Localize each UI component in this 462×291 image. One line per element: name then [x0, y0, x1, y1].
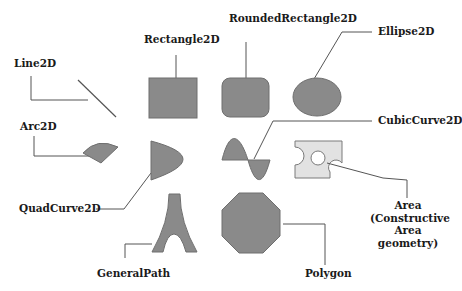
generalpath-connector [125, 244, 152, 258]
area-label: Area (Constructive Area geometry) [370, 199, 446, 249]
area-connector [327, 163, 407, 198]
polygon-group [222, 193, 325, 265]
ellipse2d-connector [314, 32, 372, 79]
generalpath-shape [152, 194, 197, 252]
line2d-label: Line2D [14, 57, 56, 70]
cubiccurve2d-label: CubicCurve2D [378, 114, 462, 127]
line2d-connector [31, 76, 88, 100]
rectangle2d-label: Rectangle2D [144, 33, 220, 46]
roundedrectangle2d-shape [222, 78, 269, 117]
generalpath-label: GeneralPath [97, 267, 170, 280]
cubiccurve2d-shape-top [222, 139, 248, 160]
roundedrectangle2d-label: RoundedRectangle2D [229, 12, 357, 25]
area-hole [311, 151, 325, 165]
polygon-label: Polygon [305, 267, 352, 280]
ellipse2d-shape [293, 78, 341, 116]
polygon-connector [283, 224, 325, 265]
ellipse2d-group [293, 32, 372, 116]
rectangle2d-group [149, 55, 197, 118]
ellipse2d-label: Ellipse2D [378, 25, 434, 38]
arc2d-group [34, 136, 118, 163]
roundedrectangle2d-group [222, 42, 269, 117]
area-label-line-1: Area [370, 199, 446, 212]
cubiccurve2d-shape-bottom [248, 160, 270, 180]
line2d-group [31, 76, 116, 117]
area-label-line-4: geometry) [370, 237, 446, 250]
rectangle2d-shape [149, 78, 197, 118]
area-label-line-3: Area [370, 224, 446, 237]
arc2d-connector [34, 136, 90, 156]
generalpath-group [125, 194, 197, 258]
area-label-line-2: (Constructive [370, 212, 446, 225]
area-group [295, 141, 407, 198]
quadcurve2d-label: QuadCurve2D [19, 202, 101, 215]
quadcurve2d-connector [96, 173, 151, 209]
line2d-shape [78, 80, 116, 117]
quadcurve2d-shape [151, 141, 183, 180]
arc2d-shape [83, 143, 118, 163]
polygon-shape [222, 193, 280, 253]
arc2d-label: Arc2D [20, 120, 56, 133]
